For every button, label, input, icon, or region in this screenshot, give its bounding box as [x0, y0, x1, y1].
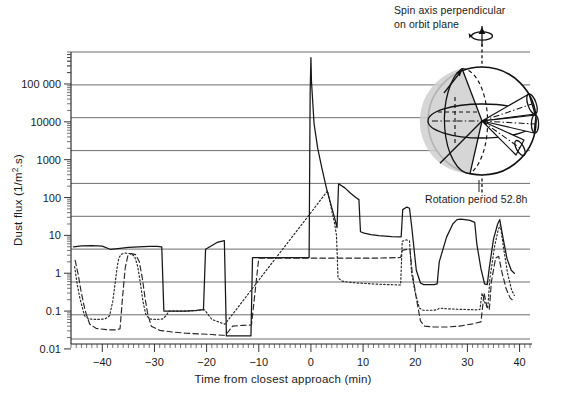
- x-tick-label: −10: [249, 356, 268, 368]
- x-tick-label: −20: [197, 356, 216, 368]
- figure-dust-flux-chart: 0.010.1110100100010000100 000 −40−30−20−…: [0, 0, 566, 395]
- x-axis-tick-labels: −40−30−20−10010203040: [93, 356, 526, 368]
- x-tick-label: 0: [308, 356, 314, 368]
- y-tick-label: 0.01: [40, 343, 61, 355]
- y-tick-label: 100 000: [21, 78, 61, 90]
- y-axis-minor-ticks: [67, 52, 71, 338]
- x-axis-minor-ticks: [71, 344, 530, 348]
- spin-axis-arrowhead: [479, 27, 486, 34]
- rotation-arrow-head: [469, 33, 472, 39]
- y-tick-label: 10: [49, 229, 61, 241]
- y-tick-label: 10000: [30, 116, 61, 128]
- y-axis-tick-labels: 0.010.1110100100010000100 000: [21, 78, 61, 355]
- rotation-period-label: Rotation period 52.8h: [425, 193, 528, 205]
- y-tick-label: 0.1: [46, 305, 61, 317]
- spin-axis-label-line1: Spin axis perpendicular: [394, 4, 506, 16]
- x-axis-title: Time from closest approach (min): [194, 373, 371, 385]
- x-tick-label: 10: [357, 356, 369, 368]
- annotation-spin-axis: Spin axis perpendicular on orbit plane: [394, 4, 506, 30]
- x-tick-label: −40: [93, 356, 112, 368]
- y-axis-title: Dust flux (1/m2.s): [11, 154, 24, 246]
- x-tick-label: 40: [513, 356, 525, 368]
- y-tick-label: 100: [43, 192, 61, 204]
- x-tick-label: 20: [409, 356, 421, 368]
- spin-axis-label-line2: on orbit plane: [394, 18, 459, 30]
- series-line-dashed: [75, 249, 514, 335]
- x-tick-label: 30: [461, 356, 473, 368]
- chart-canvas: 0.010.1110100100010000100 000 −40−30−20−…: [0, 0, 566, 395]
- y-tick-label: 1: [55, 267, 61, 279]
- x-tick-label: −30: [145, 356, 164, 368]
- inset-nucleus-globe: [420, 26, 540, 196]
- y-tick-label: 1000: [37, 154, 61, 166]
